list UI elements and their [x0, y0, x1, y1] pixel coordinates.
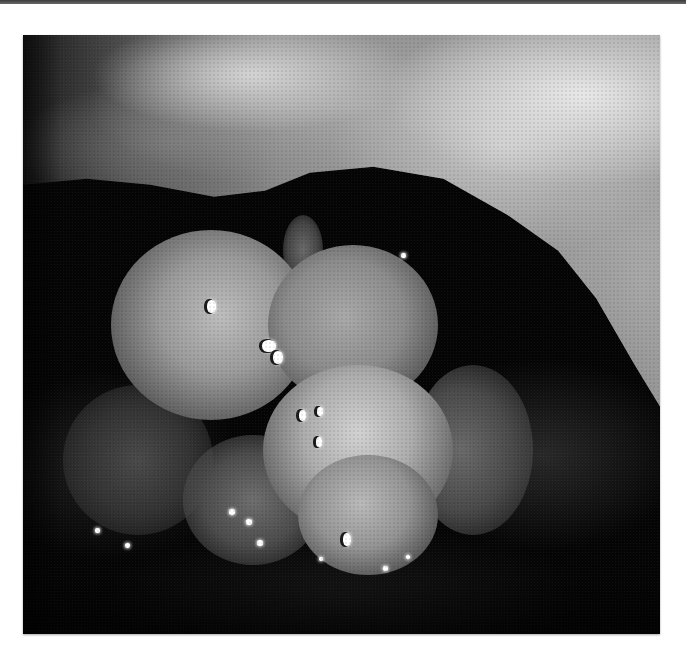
- top-border-rule: [0, 0, 686, 4]
- endoscopy-photo: [23, 35, 660, 634]
- edge-vignette: [23, 35, 660, 634]
